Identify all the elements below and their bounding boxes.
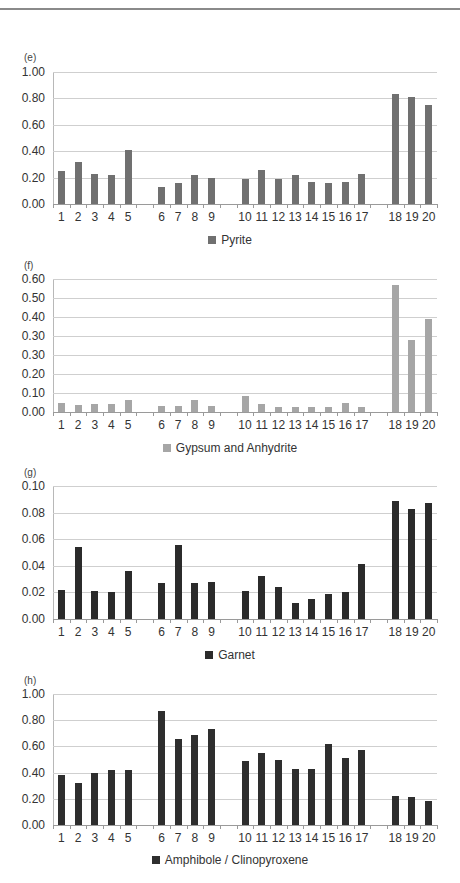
bar-sample-6	[158, 711, 165, 825]
bar-sample-10	[242, 761, 249, 825]
x-tick-mark	[203, 825, 204, 829]
gridline	[53, 393, 437, 394]
x-tick-label: 9	[202, 210, 222, 224]
x-tick-label: 17	[352, 210, 372, 224]
bar-sample-18	[392, 94, 399, 204]
bar-sample-17	[358, 750, 365, 825]
y-tick-label: 0.30	[22, 348, 45, 362]
bar-sample-19	[408, 340, 415, 412]
x-tick-mark	[136, 825, 137, 829]
x-tick-mark	[354, 412, 355, 416]
x-tick-mark	[354, 825, 355, 829]
y-tick-label: 0.20	[22, 171, 45, 185]
x-tick-mark	[53, 412, 54, 416]
x-tick-mark	[86, 204, 87, 208]
gridline	[53, 539, 437, 540]
bar-sample-15	[325, 407, 332, 412]
x-tick-label: 9	[202, 831, 222, 845]
x-tick-mark	[70, 619, 71, 623]
gridline	[53, 720, 437, 721]
x-tick-mark	[270, 619, 271, 623]
x-tick-mark	[404, 412, 405, 416]
x-tick-mark	[136, 412, 137, 416]
bar-sample-1	[58, 590, 65, 619]
x-tick-mark	[103, 204, 104, 208]
bar-sample-6	[158, 406, 165, 412]
x-tick-mark	[187, 204, 188, 208]
y-tick-label: 1.00	[22, 65, 45, 79]
bar-sample-13	[292, 603, 299, 619]
x-tick-mark	[237, 412, 238, 416]
x-tick-mark	[420, 825, 421, 829]
bar-sample-20	[425, 503, 432, 619]
x-tick-mark	[187, 412, 188, 416]
bar-sample-4	[108, 592, 115, 619]
gridline	[53, 98, 437, 99]
bar-sample-5	[125, 571, 132, 619]
bar-sample-16	[342, 758, 349, 825]
x-tick-mark	[220, 619, 221, 623]
x-tick-mark	[320, 204, 321, 208]
x-tick-mark	[437, 204, 438, 208]
x-tick-mark	[86, 825, 87, 829]
bar-sample-15	[325, 183, 332, 204]
y-tick-label: 1.00	[22, 687, 45, 701]
bar-sample-20	[425, 105, 432, 204]
x-tick-mark	[437, 619, 438, 623]
gridline	[53, 125, 437, 126]
bar-sample-8	[191, 583, 198, 619]
x-tick-mark	[253, 619, 254, 623]
bar-sample-14	[308, 599, 315, 619]
x-tick-mark	[170, 825, 171, 829]
bar-sample-17	[358, 407, 365, 412]
x-tick-label: 9	[202, 418, 222, 432]
x-tick-label: 5	[118, 418, 138, 432]
x-tick-mark	[404, 204, 405, 208]
bar-sample-7	[175, 183, 182, 204]
y-tick-label: 0.40	[22, 766, 45, 780]
bar-sample-3	[91, 773, 98, 825]
x-tick-mark	[387, 619, 388, 623]
y-tick-label: 0.00	[22, 405, 45, 419]
x-tick-mark	[187, 825, 188, 829]
x-tick-mark	[287, 412, 288, 416]
plot-area: 1.000.800.600.400.200.001234567891011121…	[53, 72, 437, 204]
x-tick-mark	[337, 204, 338, 208]
bar-sample-11	[258, 170, 265, 204]
bar-sample-2	[75, 405, 82, 412]
y-tick-label: 0.00	[22, 612, 45, 626]
bar-sample-18	[392, 796, 399, 825]
x-tick-mark	[237, 619, 238, 623]
bar-sample-17	[358, 564, 365, 619]
y-tick-label: 0.04	[22, 559, 45, 573]
bar-sample-8	[191, 175, 198, 204]
x-tick-mark	[370, 412, 371, 416]
x-tick-mark	[420, 619, 421, 623]
gridline	[53, 694, 437, 695]
x-tick-mark	[120, 204, 121, 208]
x-tick-mark	[320, 619, 321, 623]
x-tick-mark	[120, 619, 121, 623]
bar-sample-16	[342, 182, 349, 204]
bar-sample-14	[308, 769, 315, 825]
x-tick-label: 5	[118, 831, 138, 845]
bar-sample-2	[75, 547, 82, 619]
x-tick-mark	[153, 619, 154, 623]
x-tick-mark	[70, 825, 71, 829]
bar-sample-15	[325, 594, 332, 619]
x-tick-mark	[170, 412, 171, 416]
bar-sample-7	[175, 406, 182, 412]
y-tick-label: 0.40	[22, 310, 45, 324]
bar-sample-8	[191, 735, 198, 825]
x-tick-mark	[86, 412, 87, 416]
y-tick-label: 0.10	[22, 479, 45, 493]
panel-label: (f)	[24, 260, 33, 271]
gridline	[53, 336, 437, 337]
x-tick-label: 5	[118, 210, 138, 224]
bar-sample-18	[392, 285, 399, 412]
x-tick-mark	[320, 412, 321, 416]
bar-sample-16	[342, 403, 349, 412]
x-tick-mark	[337, 825, 338, 829]
y-axis-line	[53, 694, 54, 825]
gridline	[53, 151, 437, 152]
